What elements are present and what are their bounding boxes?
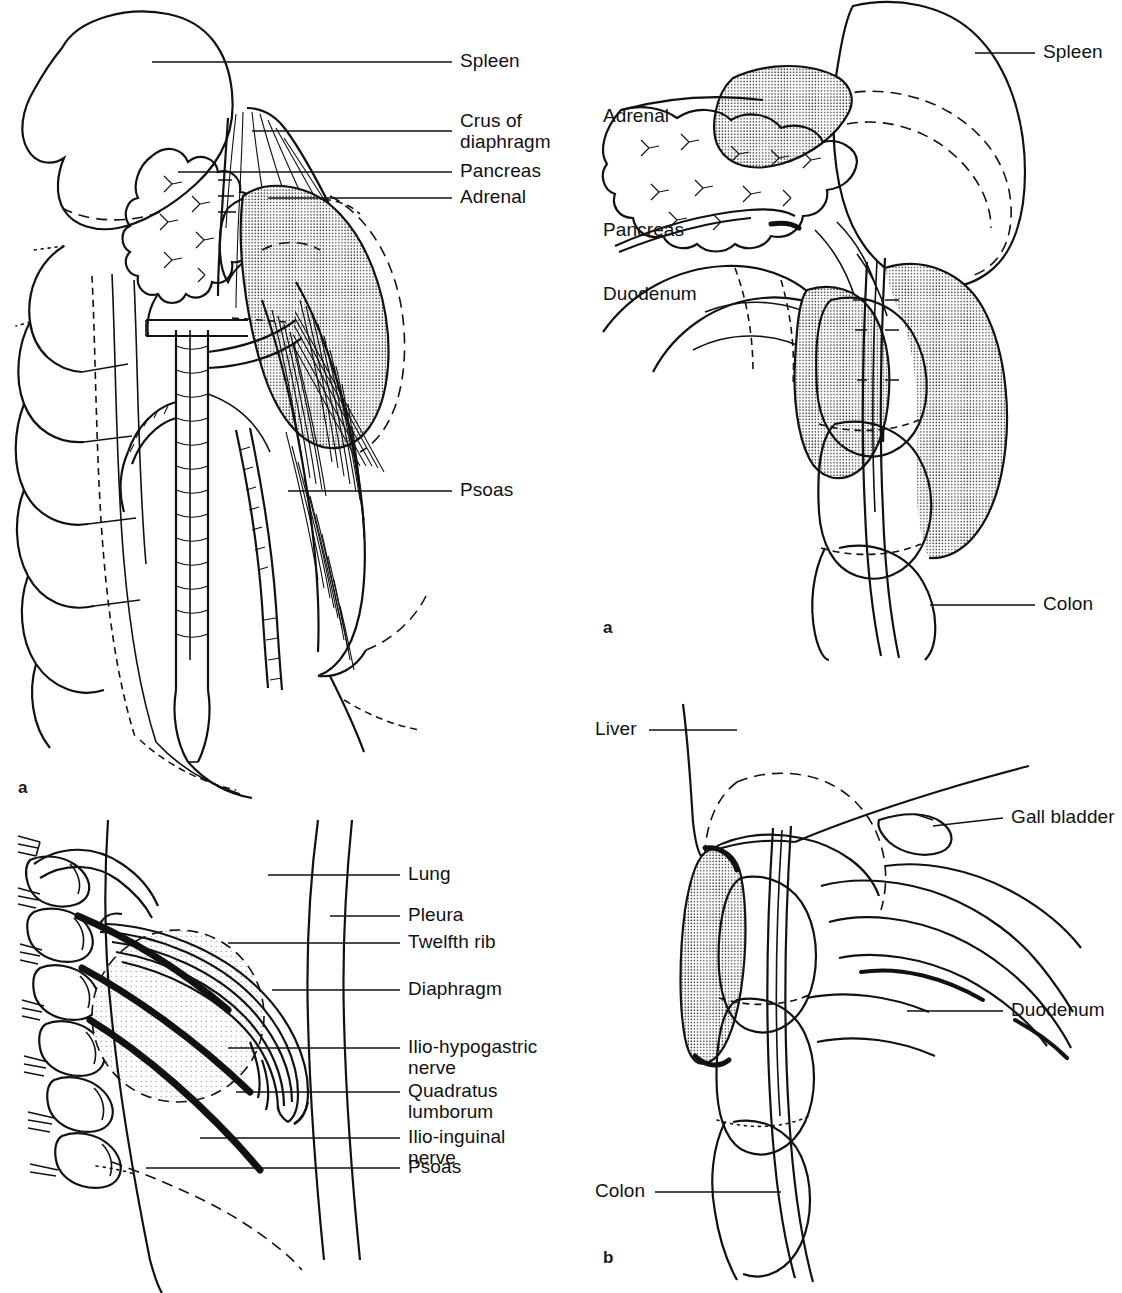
top-right-leaders [585, 0, 1122, 660]
bottom-right-leaders [585, 690, 1122, 1293]
label-lung: Lung [408, 863, 451, 884]
label-pancreas: Pancreas [460, 160, 541, 181]
label-adrenal: Adrenal [460, 186, 526, 207]
label-diaphragm: Diaphragm [408, 978, 502, 999]
label-twelfth-rib: Twelfth rib [408, 931, 496, 952]
panel-letter-a-top-right: a [603, 618, 612, 638]
label-psoas: Psoas [408, 1156, 461, 1177]
label-quadratus-lumborum: Quadratus lumborum [408, 1080, 498, 1122]
label-crus-of-diaphragm: Crus of diaphragm [460, 110, 551, 152]
label-ilio-hypogastric-nerve: Ilio-hypogastric nerve [408, 1036, 537, 1078]
label-pleura: Pleura [408, 904, 464, 925]
leader-gall-bladder [933, 818, 1003, 826]
panel-letter-a-top-left: a [18, 778, 27, 798]
panel-bottom-right: Liver Gall bladder Duodenum Colon b [585, 690, 1122, 1293]
label-adrenal: Adrenal [603, 105, 669, 126]
label-spleen: Spleen [1043, 41, 1103, 62]
label-gall-bladder: Gall bladder [1011, 806, 1115, 827]
panel-bottom-left: Lung Pleura Twelfth rib Diaphragm Ilio-h… [0, 820, 580, 1293]
label-colon: Colon [1043, 593, 1093, 614]
label-liver: Liver [595, 718, 637, 739]
label-spleen: Spleen [460, 50, 520, 71]
panel-top-left: Spleen Crus of diaphragm Pancreas Adrena… [0, 0, 580, 800]
label-psoas: Psoas [460, 479, 513, 500]
label-pancreas: Pancreas [603, 219, 684, 240]
panel-letter-b-bottom-right: b [603, 1248, 613, 1268]
label-colon: Colon [595, 1180, 645, 1201]
label-duodenum: Duodenum [603, 283, 697, 304]
panel-top-right: Adrenal Pancreas Duodenum Spleen Colon a [585, 0, 1122, 660]
label-duodenum: Duodenum [1011, 999, 1105, 1020]
